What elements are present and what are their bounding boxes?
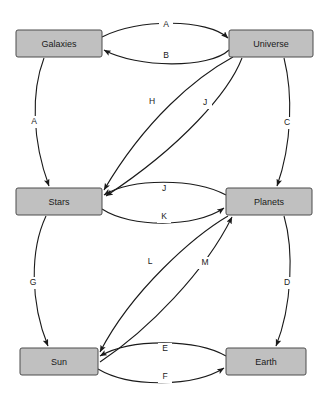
edge-label-a-left: A	[31, 116, 37, 126]
edge-j-diagonal[interactable]	[106, 58, 242, 196]
edge-m[interactable]	[100, 217, 232, 362]
node-sun[interactable]: Sun	[20, 348, 98, 375]
edge-label-e: E	[162, 343, 168, 353]
node-galaxies[interactable]: Galaxies	[16, 30, 102, 57]
edge-l[interactable]	[100, 216, 228, 352]
edge-label-l: L	[148, 256, 153, 266]
node-planets[interactable]: Planets	[226, 188, 312, 215]
edge-label-b: B	[163, 50, 169, 60]
edge-label-c: C	[284, 117, 290, 127]
node-sun-label: Sun	[51, 357, 67, 367]
node-earth-label: Earth	[255, 357, 277, 367]
edge-label-f: F	[162, 371, 167, 381]
edge-label-j-diagonal: J	[203, 97, 207, 107]
edge-label-m: M	[201, 257, 208, 267]
edge-label-k: K	[161, 211, 167, 221]
edge-label-j-middle: J	[162, 183, 166, 193]
edge-label-d: D	[284, 277, 290, 287]
node-universe[interactable]: Universe	[229, 30, 313, 57]
edge-label-a-top: A	[163, 19, 169, 29]
node-planets-label: Planets	[254, 197, 285, 207]
edge-h[interactable]	[104, 57, 233, 190]
node-stars[interactable]: Stars	[16, 188, 102, 215]
nodes-layer: Galaxies Universe Stars Planets Sun Eart	[16, 30, 313, 375]
edge-label-h: H	[149, 96, 155, 106]
node-galaxies-label: Galaxies	[41, 39, 77, 49]
graph-canvas: A B A H J C J K G L M D E	[0, 0, 325, 400]
graph-diagram: A B A H J C J K G L M D E	[0, 0, 325, 400]
node-universe-label: Universe	[253, 39, 289, 49]
edge-label-g: G	[30, 277, 37, 287]
node-earth[interactable]: Earth	[226, 348, 306, 375]
node-stars-label: Stars	[48, 197, 70, 207]
